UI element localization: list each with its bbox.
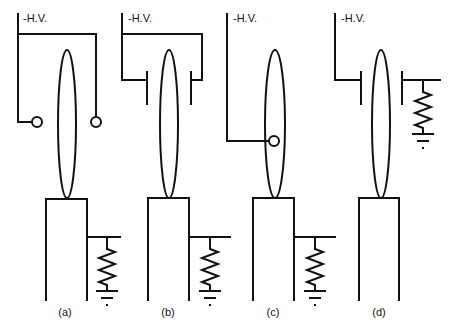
hv-label: -H.V.: [233, 12, 257, 24]
panel-d: -H.V. (d): [335, 12, 440, 318]
ring-electrode-left: [32, 117, 42, 127]
panel-label: (c): [267, 306, 280, 318]
panel-c: -H.V. (c): [227, 12, 335, 318]
hv-label: -H.V.: [23, 12, 47, 24]
panel-a: -H.V. (a): [18, 12, 120, 318]
resistor-ground-icon: [200, 237, 220, 306]
panel-label: (b): [161, 306, 174, 318]
resistor-ground-icon: [97, 237, 117, 306]
holder: [253, 198, 294, 300]
resistor-ground-icon: [305, 237, 325, 306]
emitter-ellipsoid: [372, 50, 390, 198]
holder: [148, 198, 189, 300]
hv-label: -H.V.: [341, 12, 365, 24]
resistor-ground-icon: [413, 80, 433, 149]
hv-label: -H.V.: [128, 12, 152, 24]
holder: [359, 198, 399, 300]
hv-wiring: [18, 14, 96, 122]
panel-b: -H.V. (b): [122, 12, 230, 318]
panel-label: (d): [372, 306, 385, 318]
hv-wiring: [227, 14, 268, 141]
emitter-ellipsoid: [160, 50, 178, 198]
ring-electrode-right: [91, 117, 101, 127]
holder: [46, 199, 87, 300]
diagram-canvas: -H.V. (a) -H.V. (b) -H.V.: [0, 0, 455, 332]
panel-label: (a): [58, 306, 71, 318]
emitter-ellipsoid: [265, 50, 285, 198]
ring-electrode: [269, 136, 279, 146]
emitter-ellipsoid: [58, 50, 76, 198]
